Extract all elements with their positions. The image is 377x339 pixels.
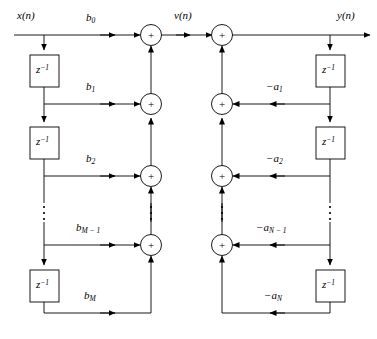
delay-label-left-3: z−1 <box>36 279 49 290</box>
label-coefficient-a1: −a1 <box>266 81 283 93</box>
label-coefficient-b0: b0 <box>86 12 95 24</box>
tap-row-aN <box>222 256 330 313</box>
label-coefficient-b1: b1 <box>86 81 95 93</box>
ellipsis-dots <box>43 206 331 220</box>
tap-row-bM <box>44 256 151 313</box>
label-coefficient-aN: −aN <box>264 290 282 302</box>
label-coefficient-b2: b2 <box>86 153 95 165</box>
adder-plus-right-3: + <box>219 171 225 182</box>
adder-plus-left-4: + <box>148 240 154 251</box>
delay-label-right-2: z−1 <box>322 136 335 147</box>
label-intermediate-signal: v(n) <box>174 10 192 21</box>
adder-plus-left-2: + <box>148 99 154 110</box>
label-output-signal: y(n) <box>337 10 355 21</box>
adder-plus-left-1: + <box>148 30 154 41</box>
label-input-signal: x(n) <box>17 10 35 21</box>
label-coefficient-bM: bM <box>84 290 96 302</box>
delay-label-left-1: z−1 <box>36 64 49 75</box>
signal-flow-diagram: x(n) v(n) y(n) b0 b1 b2 bM − 1 bM −a1 −a… <box>0 0 377 339</box>
label-coefficient-bM-1: bM − 1 <box>76 222 100 234</box>
flow-graph-canvas <box>0 0 377 339</box>
adder-plus-right-2: + <box>219 99 225 110</box>
label-coefficient-a2: −a2 <box>266 153 283 165</box>
label-coefficient-aN-1: −aN − 1 <box>256 222 287 234</box>
adder-plus-left-3: + <box>148 171 154 182</box>
delay-label-right-3: z−1 <box>322 279 335 290</box>
delay-label-left-2: z−1 <box>36 136 49 147</box>
adder-plus-right-1: + <box>219 30 225 41</box>
adder-plus-right-4: + <box>219 240 225 251</box>
delay-label-right-1: z−1 <box>322 64 335 75</box>
